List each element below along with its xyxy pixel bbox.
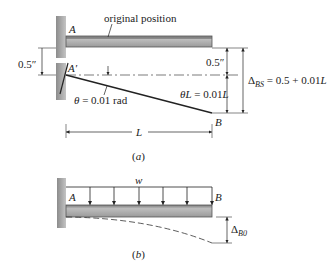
- original-position-leader: [108, 24, 112, 37]
- theta-label: θ = 0.01 rad: [74, 94, 128, 106]
- caption-b: (b): [132, 248, 145, 261]
- figure-a: original position A A′ θ = 0.01 rad B 0.…: [18, 12, 327, 163]
- theta-l-label: θL = 0.01L: [180, 88, 229, 100]
- figure-b: w A B ΔB0 (b): [57, 174, 247, 261]
- point-b-label: B: [215, 191, 222, 203]
- load-arrows: [90, 187, 212, 205]
- load-label: w: [135, 174, 143, 186]
- left-offset-label: 0.5″: [18, 58, 36, 70]
- point-a-label: A: [68, 191, 76, 203]
- fixed-support-wall: [57, 178, 66, 228]
- point-b-label: B: [215, 116, 222, 128]
- delta-b0-label: ΔB0: [231, 223, 247, 238]
- beam: [66, 205, 212, 217]
- deflected-shape-curve: [66, 217, 212, 243]
- point-a-label: A: [68, 23, 76, 35]
- caption-a: (a): [132, 150, 145, 163]
- right-offset-label: 0.5″: [206, 56, 224, 68]
- delta-bs-label: ΔBS = 0.5 + 0.01L: [248, 74, 327, 89]
- fixed-support-wall-upper: [56, 16, 66, 58]
- original-position-label: original position: [104, 12, 177, 24]
- beam-deflection-diagram: original position A A′ θ = 0.01 rad B 0.…: [0, 0, 334, 269]
- point-a-prime-label: A′: [67, 62, 78, 74]
- fixed-support-wall-lower: [56, 63, 66, 100]
- length-label: L: [135, 126, 142, 138]
